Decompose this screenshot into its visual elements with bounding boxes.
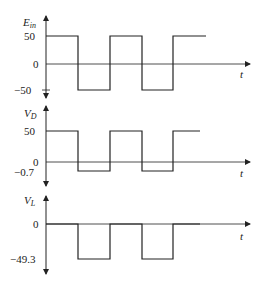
tick-0: 0 <box>33 58 39 70</box>
tick-minus-0-7: −0.7 <box>14 166 34 178</box>
panel-ein: Ein 50 0 −50 t <box>14 16 250 98</box>
vl-label: VL <box>24 194 36 208</box>
t-label: t <box>240 230 244 242</box>
t-label: t <box>240 167 244 179</box>
panel-vd: VD 50 0 −0.7 t <box>14 106 250 186</box>
tick-0: 0 <box>33 218 39 230</box>
vd-waveform <box>46 131 200 171</box>
tick-50: 50 <box>24 125 36 137</box>
tick-minus-50: −50 <box>14 84 32 96</box>
ein-waveform <box>46 36 206 90</box>
vl-waveform <box>46 224 200 259</box>
panel-vl: VL 0 −49.3 t <box>10 194 250 274</box>
tick-50: 50 <box>24 30 36 42</box>
tick-minus-49-3: −49.3 <box>10 253 36 265</box>
t-label: t <box>240 68 244 80</box>
ein-label: Ein <box>22 16 36 30</box>
waveform-diagram: Ein 50 0 −50 t VD 50 0 −0.7 t VL 0 −49.3… <box>0 0 263 284</box>
vd-label: VD <box>24 107 37 121</box>
